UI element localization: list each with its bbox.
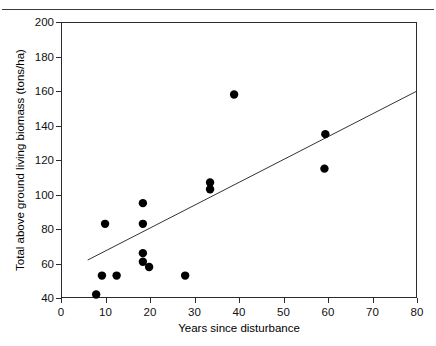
figure-root: 406080100120140160180200 010203040506070… bbox=[0, 0, 436, 346]
data-point bbox=[139, 249, 147, 257]
data-point bbox=[206, 185, 214, 193]
x-tick-label: 40 bbox=[233, 306, 246, 318]
x-tick-label: 70 bbox=[366, 306, 379, 318]
axis-ticks bbox=[56, 23, 418, 304]
data-point bbox=[101, 220, 109, 228]
data-point bbox=[181, 271, 189, 279]
data-point bbox=[112, 271, 120, 279]
data-point bbox=[320, 164, 328, 172]
data-point bbox=[139, 220, 147, 228]
data-point bbox=[321, 130, 329, 138]
x-tick-label: 30 bbox=[188, 306, 201, 318]
data-point bbox=[139, 199, 147, 207]
y-axis-title: Total above ground living biomass (tons/… bbox=[14, 22, 30, 298]
x-axis-title: Years since disturbance bbox=[61, 322, 417, 334]
data-point bbox=[145, 263, 153, 271]
x-tick-label: 20 bbox=[144, 306, 157, 318]
x-tick-label: 10 bbox=[99, 306, 112, 318]
x-tick-label: 0 bbox=[58, 306, 64, 318]
data-point bbox=[230, 90, 238, 98]
data-points bbox=[92, 90, 330, 298]
data-point bbox=[92, 290, 100, 298]
regression-line bbox=[88, 91, 417, 260]
plot-canvas bbox=[0, 0, 436, 346]
scatter-plot: 406080100120140160180200 010203040506070… bbox=[0, 0, 436, 346]
x-tick-label: 60 bbox=[322, 306, 335, 318]
x-tick-label: 80 bbox=[411, 306, 424, 318]
x-tick-label: 50 bbox=[277, 306, 290, 318]
data-point bbox=[98, 271, 106, 279]
